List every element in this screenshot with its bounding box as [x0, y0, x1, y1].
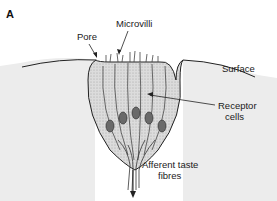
afferent-label-line1: Afferent taste	[142, 159, 198, 170]
receptor-cells-label-line1: Receptor	[218, 100, 257, 111]
surface-label: Surface	[222, 63, 255, 74]
diagram-canvas: A Pore Microvilli Surface Receptor cells…	[0, 0, 277, 201]
afferent-arrowhead	[130, 191, 136, 198]
receptor-cells-label-line2: cells	[225, 111, 244, 122]
pore-arrowhead	[93, 52, 97, 58]
afferent-label-line2: fibres	[158, 170, 181, 181]
pore-label: Pore	[77, 31, 97, 42]
microvilli-label: Microvilli	[116, 18, 152, 29]
microvilli-pointer	[120, 31, 128, 52]
taste-bud-diagram: A Pore Microvilli Surface Receptor cells…	[0, 0, 277, 201]
panel-label: A	[6, 8, 14, 20]
microvilli	[106, 51, 158, 62]
